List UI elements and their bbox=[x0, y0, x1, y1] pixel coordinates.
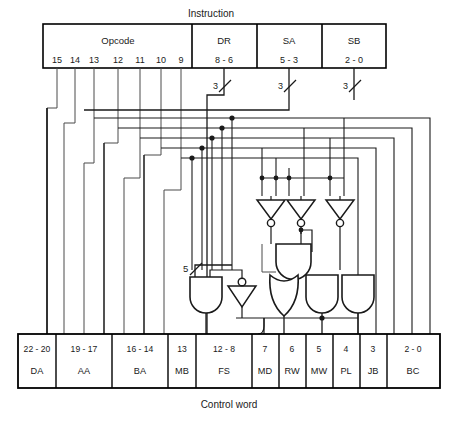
cw-jb-bits: 3 bbox=[371, 344, 376, 354]
cw-fs-bits: 12 - 8 bbox=[213, 344, 235, 354]
field-sa-name: SA bbox=[283, 35, 296, 46]
and-gate-lower-1 bbox=[306, 275, 338, 334]
gate-input-taps bbox=[262, 178, 344, 196]
cw-rw-name: RW bbox=[284, 366, 299, 376]
cw-md-name: MD bbox=[258, 366, 273, 376]
field-dr-name: DR bbox=[217, 35, 231, 46]
field-opcode-bit-14: 14 bbox=[70, 55, 80, 65]
and-gate-lower-2 bbox=[342, 275, 374, 334]
opcode-taps bbox=[192, 118, 232, 270]
field-opcode-bit-12: 12 bbox=[113, 55, 123, 65]
sa-bus-slash bbox=[284, 80, 296, 92]
instruction-title: Instruction bbox=[188, 8, 234, 19]
sa-bus-width: 3 bbox=[278, 81, 283, 91]
md-feed-wire bbox=[258, 318, 264, 334]
field-sa-bits: 5 - 3 bbox=[280, 55, 298, 65]
or-gate-lower bbox=[270, 275, 298, 334]
instruction-register: Opcode 15 14 13 12 11 10 9 DR 8 - 6 SA 5… bbox=[43, 24, 386, 68]
sb-bus-width: 3 bbox=[343, 81, 348, 91]
cw-mw-name: MW bbox=[311, 366, 328, 376]
cw-mb-bits: 13 bbox=[177, 344, 187, 354]
dr-bus-slash bbox=[219, 80, 231, 92]
field-opcode-bit-13: 13 bbox=[89, 55, 99, 65]
cw-ba-name: BA bbox=[134, 366, 147, 376]
field-opcode-bit-9: 9 bbox=[178, 55, 183, 65]
control-word-title: Control word bbox=[201, 399, 258, 410]
cw-bc-name: BC bbox=[407, 366, 420, 376]
field-opcode-bit-11: 11 bbox=[135, 55, 144, 65]
bus-width-markers: 3 3 3 bbox=[213, 80, 361, 92]
cw-md-bits: 7 bbox=[263, 344, 268, 354]
dr-bus-width: 3 bbox=[213, 81, 218, 91]
cw-pl-bits: 4 bbox=[344, 344, 349, 354]
field-opcode-name: Opcode bbox=[101, 35, 134, 46]
control-word-register: 22 - 20 DA 19 - 17 AA 16 - 14 BA 13 MB 1… bbox=[18, 334, 440, 388]
inverter-1 bbox=[257, 196, 285, 244]
field-sb-name: SB bbox=[348, 35, 361, 46]
control-word-feed-wires bbox=[47, 108, 144, 334]
field-dr-bits: 8 - 6 bbox=[215, 55, 233, 65]
cw-da-bits: 22 - 20 bbox=[24, 344, 51, 354]
opcode-bit-wires bbox=[47, 68, 181, 334]
and-upper-input-wires bbox=[262, 244, 276, 272]
field-opcode-bit-15: 15 bbox=[52, 55, 62, 65]
field-opcode-bit-10: 10 bbox=[156, 55, 166, 65]
cw-ba-bits: 16 - 14 bbox=[127, 344, 154, 354]
sb-bus-slash bbox=[349, 80, 361, 92]
cw-jb-name: JB bbox=[368, 366, 379, 376]
cw-da-name: DA bbox=[31, 366, 45, 376]
instruction-decoder-diagram: Instruction Opcode 15 14 13 12 11 10 9 D… bbox=[0, 0, 458, 422]
cw-mb-name: MB bbox=[175, 366, 189, 376]
cw-aa-bits: 19 - 17 bbox=[71, 344, 98, 354]
cw-bc-bits: 2 - 0 bbox=[404, 344, 421, 354]
and-gate-left bbox=[190, 277, 222, 334]
cw-fs-name: FS bbox=[218, 366, 230, 376]
field-sb-bits: 2 - 0 bbox=[345, 55, 363, 65]
output-rail-junction bbox=[319, 315, 324, 320]
opcode-hook-wires bbox=[84, 163, 164, 334]
fs-bus-width: 5 bbox=[183, 263, 188, 274]
cw-aa-name: AA bbox=[78, 366, 91, 376]
cw-mw-bits: 5 bbox=[317, 344, 322, 354]
cw-rw-bits: 6 bbox=[290, 344, 295, 354]
inverter-3 bbox=[326, 196, 354, 270]
gate-output-rail bbox=[236, 318, 358, 334]
diagram-canvas: Instruction Opcode 15 14 13 12 11 10 9 D… bbox=[0, 0, 458, 422]
cw-pl-name: PL bbox=[340, 366, 351, 376]
